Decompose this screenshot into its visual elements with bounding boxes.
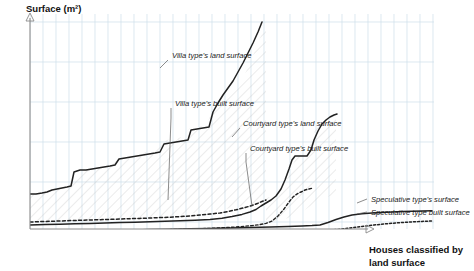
annotation-villa-land-surface: Villa type's land surface (172, 51, 251, 60)
annotation-speculative-surface: Speculative type's surface (371, 195, 459, 204)
x-axis-title-line2: land surface (369, 257, 425, 268)
leader-speculative-land (357, 199, 367, 203)
chart-svg: Villa type's land surface Villa type's b… (0, 0, 474, 271)
leader-villa-land (160, 60, 168, 68)
x-axis-title-line1: Houses classified by (369, 244, 464, 255)
courtyard-hatch-band (266, 114, 336, 222)
annotation-speculative-built-surface: Speculative type built surface (371, 208, 470, 217)
y-axis-title: Surface (m²) (26, 3, 81, 14)
annotation-villa-built-surface: Villa type's built surface (175, 99, 254, 108)
annotation-courtyard-built-surface: Courtyard type's built surface (250, 144, 348, 153)
annotation-courtyard-land-surface: Courtyard type's land surface (243, 119, 342, 128)
chart-figure: Villa type's land surface Villa type's b… (0, 0, 474, 271)
